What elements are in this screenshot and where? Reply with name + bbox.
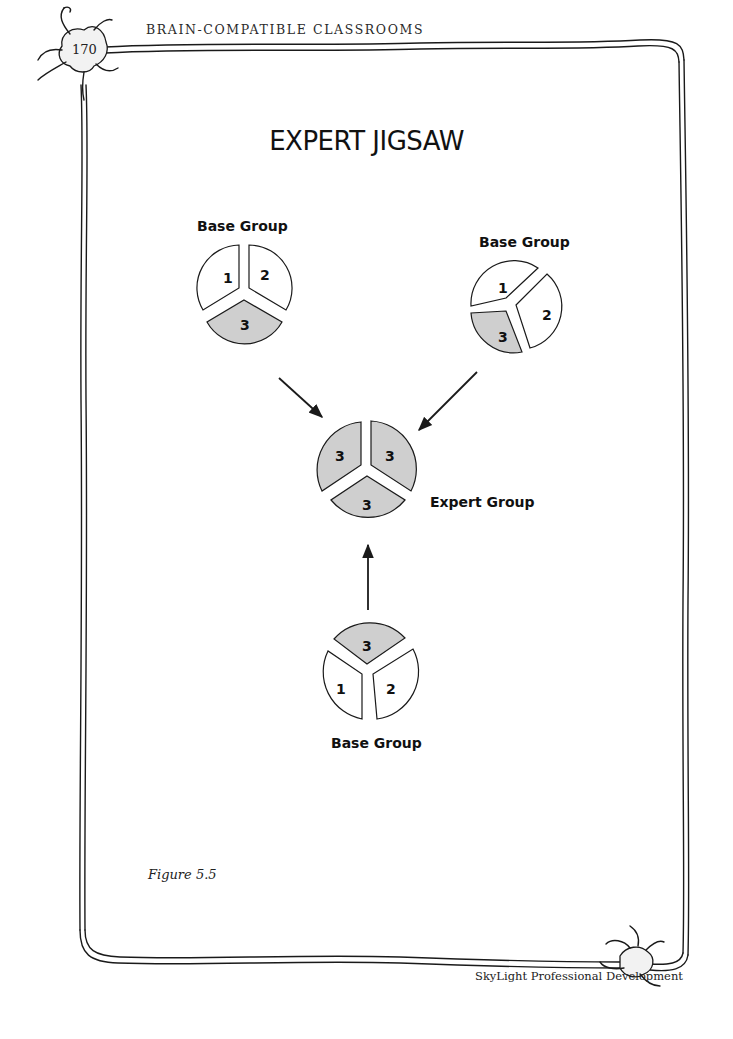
segment-3	[471, 311, 522, 353]
figure-caption: Figure 5.5	[148, 867, 217, 882]
segment-1-number: 1	[498, 280, 508, 296]
segment-2-number: 2	[260, 267, 270, 283]
segment-2-number: 2	[386, 681, 396, 697]
segment-3-number: 3	[362, 638, 372, 654]
label-base-group-top-right: Base Group	[479, 234, 570, 250]
segment-3-number: 3	[240, 317, 250, 333]
segment-1-number: 1	[336, 681, 346, 697]
base-group-top-right: 1 2 3	[471, 261, 562, 353]
base-group-top-left: 1 2 3	[197, 245, 292, 344]
expert-group: 3 3 3	[317, 421, 416, 517]
segment-a-number: 3	[335, 448, 345, 464]
jigsaw-diagram: 1 2 3 1 2 3 3 3 3 3 1 2	[0, 0, 733, 1039]
label-base-group-top-left: Base Group	[197, 218, 288, 234]
segment-2	[373, 649, 419, 719]
segment-3-number: 3	[498, 329, 508, 345]
publisher-footer: SkyLight Professional Development	[475, 969, 683, 983]
arrow-top-left-to-expert	[279, 378, 322, 417]
segment-c-number: 3	[362, 497, 372, 513]
label-base-group-bottom: Base Group	[331, 735, 422, 751]
segment-b-number: 3	[385, 448, 395, 464]
segment-2	[249, 245, 292, 310]
label-expert-group: Expert Group	[430, 494, 535, 510]
segment-1-number: 1	[223, 270, 233, 286]
segment-2-number: 2	[542, 307, 552, 323]
arrow-top-right-to-expert	[419, 372, 477, 430]
segment-2	[516, 274, 562, 348]
base-group-bottom: 3 1 2	[323, 623, 418, 719]
book-page: BRAIN-COMPATIBLE CLASSROOMS 170 EXPERT J…	[0, 0, 733, 1039]
